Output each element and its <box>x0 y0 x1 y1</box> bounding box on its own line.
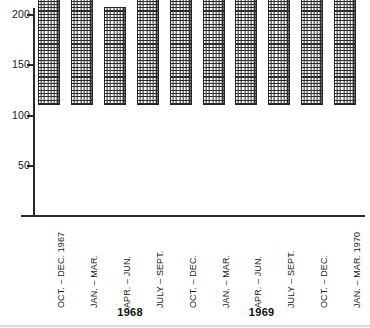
bar <box>334 0 356 105</box>
bar <box>104 7 126 105</box>
x-axis-label: OCT. – DEC. <box>186 222 200 308</box>
x-axis-label: JAN. – MAR. 1970 <box>350 222 364 308</box>
bar <box>38 0 60 105</box>
x-axis-label: APR. – JUN. <box>120 222 134 308</box>
bar <box>235 0 257 105</box>
x-axis-label: JAN. – MAR. <box>87 222 101 308</box>
x-axis-label: JAN. – MAR. <box>219 222 233 308</box>
x-axis-label: OCT. – DEC. <box>317 222 331 308</box>
bar <box>301 0 323 105</box>
bar <box>137 0 159 105</box>
plot-area <box>0 0 370 217</box>
x-axis-label: JULY – SEPT. <box>153 222 167 308</box>
x-axis-label: JULY – SEPT. <box>284 222 298 308</box>
bar <box>71 0 93 105</box>
year-group-label: 1969 <box>249 306 275 318</box>
bar <box>203 0 225 105</box>
bar-chart: 50100150200 OCT. – DEC. 1967JAN. – MAR.A… <box>0 0 370 328</box>
x-axis-label: OCT. – DEC. 1967 <box>54 222 68 308</box>
year-group-label: 1968 <box>117 306 143 318</box>
bar <box>170 0 192 105</box>
bar <box>268 0 290 105</box>
x-axis-label: APR. – JUN. <box>251 222 265 308</box>
